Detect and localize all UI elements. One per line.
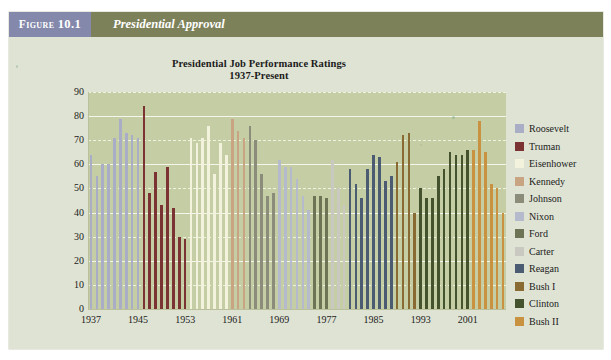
legend-item-label: Kennedy [529,176,565,187]
bar [355,184,358,309]
legend-color-swatch [515,177,524,186]
bar [449,152,452,309]
legend-item[interactable]: Reagan [515,260,601,278]
bar [237,131,240,309]
legend-color-swatch [515,142,524,151]
y-axis-tick-label: 80 [60,110,84,121]
bar [184,239,187,309]
y-axis-tick-label: 50 [60,182,84,193]
bar [243,138,246,309]
bar [319,196,322,309]
legend-item[interactable]: Carter [515,243,601,261]
legend-item-label: Ford [529,228,548,239]
bar [249,126,252,309]
legend-color-swatch [515,299,524,308]
y-axis-tick-label: 10 [60,279,84,290]
y-axis-tick-label: 70 [60,134,84,145]
bar [390,176,393,309]
x-axis-tick-label: 2001 [446,314,490,325]
legend-item[interactable]: Eisenhower [515,155,601,173]
bar [172,208,175,309]
bar [207,126,210,309]
bar [96,176,99,309]
bar [131,135,134,309]
legend-item-label: Nixon [529,211,554,222]
x-axis-ticks: 193719451953196119691977198519932001 [88,314,506,330]
chart-legend: RooseveltTrumanEisenhowerKennedyJohnsonN… [515,120,601,330]
legend-color-swatch [515,229,524,238]
print-speck [16,65,18,68]
bar [360,198,363,309]
bar [490,184,493,309]
legend-item[interactable]: Bush I [515,278,601,296]
y-axis-tick-label: 0 [60,303,84,314]
bar [296,179,299,309]
bar [148,193,151,309]
bar [143,106,146,309]
bar [137,138,140,309]
bar [425,198,428,309]
bar [366,169,369,309]
x-axis-tick-label: 1961 [210,314,254,325]
bar [160,205,163,309]
print-speck [420,144,422,146]
x-axis-line [88,309,506,310]
legend-item-label: Roosevelt [529,123,569,134]
bar [408,133,411,309]
bar [219,143,222,309]
bar [372,155,375,309]
bar [337,188,340,309]
legend-color-swatch [515,212,524,221]
bar [154,172,157,309]
bar [461,155,464,309]
legend-item-label: Carter [529,246,554,257]
bar [119,119,122,309]
legend-item[interactable]: Johnson [515,190,601,208]
legend-item-label: Reagan [529,263,559,274]
legend-item[interactable]: Roosevelt [515,120,601,138]
y-axis-tick-label: 90 [60,86,84,97]
legend-item[interactable]: Nixon [515,208,601,226]
bar [437,176,440,309]
x-axis-tick-label: 1953 [163,314,207,325]
bar [260,174,263,309]
bar [190,138,193,309]
legend-item[interactable]: Truman [515,138,601,156]
bar [101,164,104,309]
legend-item[interactable]: Bush II [515,313,601,331]
y-axis-tick-label: 20 [60,255,84,266]
bar [349,169,352,309]
bar [455,155,458,309]
figure-card: Figure 10.1 Presidential Approval Presid… [9,12,603,349]
legend-color-swatch [515,282,524,291]
legend-color-swatch [515,247,524,256]
bar [343,205,346,309]
bar [419,188,422,309]
bar [402,135,405,309]
legend-color-swatch [515,124,524,133]
bar [431,198,434,309]
y-axis-ticks: 0102030405060708090 [56,92,84,309]
bar [290,167,293,309]
x-axis-tick-label: 1969 [257,314,301,325]
x-axis-tick-label: 1945 [116,314,160,325]
legend-item-label: Johnson [529,193,562,204]
legend-item-label: Truman [529,141,560,152]
bar [472,150,475,309]
bar [166,167,169,309]
bar [384,181,387,309]
y-axis-tick-label: 60 [60,158,84,169]
bar [484,152,487,309]
bar [302,196,305,309]
x-axis-tick-label: 1993 [399,314,443,325]
print-speck [452,116,455,119]
legend-item[interactable]: Kennedy [515,173,601,191]
bar [396,162,399,309]
figure-root: Figure 10.1 Presidential Approval Presid… [0,0,611,360]
plot-area [88,92,506,309]
bar [107,164,110,309]
legend-item[interactable]: Ford [515,225,601,243]
legend-item[interactable]: Clinton [515,295,601,313]
bar [213,174,216,309]
bar [478,121,481,309]
